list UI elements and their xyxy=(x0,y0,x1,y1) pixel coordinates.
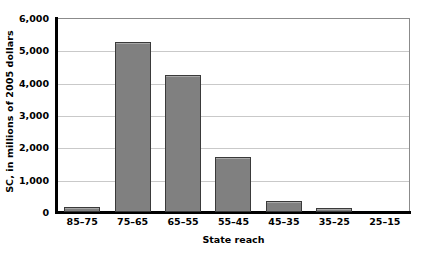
y-axis-tick-label: 4,000 xyxy=(19,77,49,88)
x-axis-tick-label: 35–25 xyxy=(319,216,350,227)
x-axis-tick-label: 85–75 xyxy=(67,216,98,227)
bar xyxy=(266,201,302,212)
bar-slot xyxy=(158,18,208,212)
bar xyxy=(215,157,251,212)
bar-slot xyxy=(259,18,309,212)
bar-series xyxy=(57,18,410,212)
y-axis-title-text: SC, in millions of 2005 dollars xyxy=(4,30,15,193)
bar xyxy=(165,75,201,212)
bar-slot xyxy=(208,18,258,212)
y-axis-tick-label: 3,000 xyxy=(19,110,49,121)
x-axis-tick-label: 65–55 xyxy=(167,216,198,227)
y-axis-tick-label: 0 xyxy=(42,207,49,218)
bar xyxy=(64,207,100,212)
x-axis-tick-labels: 85–7575–6565–5555–4545–3535–2525–15 xyxy=(57,216,410,232)
y-axis-tick-labels: 01,0002,0003,0004,0005,0006,000 xyxy=(18,0,53,253)
y-axis-tick-label: 2,000 xyxy=(19,142,49,153)
bar-slot xyxy=(107,18,157,212)
y-axis-tick-label: 6,000 xyxy=(19,13,49,24)
bar-slot xyxy=(309,18,359,212)
bar-slot xyxy=(57,18,107,212)
bar-chart: SC, in millions of 2005 dollars 01,0002,… xyxy=(0,0,421,253)
x-axis-tick-label: 55–45 xyxy=(218,216,249,227)
y-axis-tick-label: 1,000 xyxy=(19,174,49,185)
bar xyxy=(115,42,151,212)
bar-slot xyxy=(360,18,410,212)
x-axis-tick-label: 45–35 xyxy=(268,216,299,227)
x-axis-title: State reach xyxy=(57,234,410,245)
y-axis-title: SC, in millions of 2005 dollars xyxy=(0,0,18,222)
bar xyxy=(316,208,352,212)
x-axis-tick-label: 75–65 xyxy=(117,216,148,227)
y-axis-tick-label: 5,000 xyxy=(19,45,49,56)
x-axis-tick-label: 25–15 xyxy=(369,216,400,227)
